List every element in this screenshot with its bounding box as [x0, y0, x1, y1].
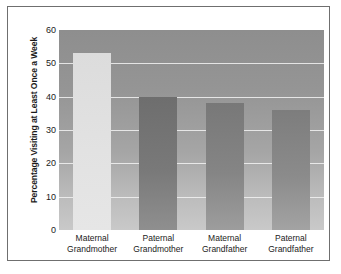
bar-slot	[258, 30, 324, 230]
x-tick-maternal-grandmother: Maternal Grandmother	[59, 233, 125, 254]
y-tick-label: 60	[30, 25, 56, 35]
bar-paternal-grandfather	[272, 110, 310, 230]
bar-chart-figure: Percentage Visiting at Least Once a Week…	[0, 0, 341, 274]
x-axis-tick-labels: Maternal Grandmother Paternal Grandmothe…	[59, 233, 324, 254]
bar-slot	[192, 30, 258, 230]
bar-paternal-grandmother	[139, 97, 177, 230]
y-tick-label: 0	[30, 225, 56, 235]
y-tick-label: 50	[30, 58, 56, 68]
x-tick-paternal-grandfather: Paternal Grandfather	[258, 233, 324, 254]
x-tick-line1: Paternal	[125, 233, 191, 244]
x-tick-line2: Grandfather	[192, 244, 258, 255]
bar-slot	[59, 30, 125, 230]
y-axis-tick-labels: 60 50 40 30 20 10 0	[30, 23, 56, 237]
bar-series	[59, 30, 324, 230]
x-tick-line2: Grandmother	[59, 244, 125, 255]
chart-frame: Percentage Visiting at Least Once a Week…	[7, 6, 330, 261]
y-tick-label: 30	[30, 125, 56, 135]
x-tick-paternal-grandmother: Paternal Grandmother	[125, 233, 191, 254]
bar-slot	[125, 30, 191, 230]
x-tick-line2: Grandfather	[258, 244, 324, 255]
x-tick-line1: Maternal	[192, 233, 258, 244]
x-tick-line1: Paternal	[258, 233, 324, 244]
x-tick-maternal-grandfather: Maternal Grandfather	[192, 233, 258, 254]
bar-maternal-grandmother	[73, 53, 111, 230]
y-tick-label: 10	[30, 192, 56, 202]
y-tick-label: 20	[30, 158, 56, 168]
plot-area	[59, 30, 324, 230]
bar-maternal-grandfather	[206, 103, 244, 230]
x-tick-line1: Maternal	[59, 233, 125, 244]
y-tick-label: 40	[30, 92, 56, 102]
x-tick-line2: Grandmother	[125, 244, 191, 255]
